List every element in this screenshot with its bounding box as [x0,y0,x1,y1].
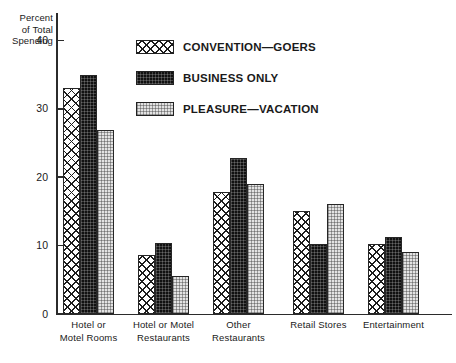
legend-swatch-stipple-icon [136,102,174,116]
y-tick-label-20: 20 [18,172,48,183]
bar-4-0 [368,244,385,314]
bar-0-2 [97,130,114,314]
y-axis-title-line-1: Percent [0,12,53,24]
legend-item-convention-goers: CONVENTION—GOERS [136,40,396,54]
legend-swatch-solid-icon [136,71,174,85]
y-tick-label-10: 10 [18,240,48,251]
bar-2-2 [247,184,264,314]
bar-0-0 [63,88,80,314]
bar-group-0 [63,13,118,314]
bar-4-1 [385,237,402,314]
bar-4-2 [402,252,419,314]
x-category-label-line: Restaurants [184,331,294,344]
bar-1-1 [155,243,172,314]
x-category-label-line: Entertainment [339,318,449,331]
bar-3-1 [310,244,327,314]
bar-2-1 [230,158,247,314]
bar-2-0 [213,192,230,314]
legend-item-pleasure-vacation: PLEASURE—VACATION [136,102,396,116]
legend-item-business-only: BUSINESS ONLY [136,71,396,85]
bar-1-2 [172,276,189,314]
bar-1-0 [138,255,155,314]
y-tick-label-40: 40 [18,35,48,46]
y-tick-label-30: 30 [18,103,48,114]
legend-label-pleasure-vacation: PLEASURE—VACATION [183,102,319,116]
bar-3-2 [327,204,344,314]
x-category-label-4: Entertainment [339,318,449,331]
legend-label-business-only: BUSINESS ONLY [183,71,278,85]
bar-0-1 [80,75,97,314]
bar-chart: Percent of Total Spending 010203040 Hote… [0,0,456,363]
bar-3-0 [293,211,310,314]
legend: CONVENTION—GOERS BUSINESS ONLY PLEASURE—… [136,40,396,133]
legend-label-convention-goers: CONVENTION—GOERS [183,40,316,54]
legend-swatch-crosshatch-icon [136,40,174,54]
